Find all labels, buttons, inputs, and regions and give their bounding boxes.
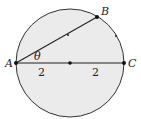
segment-label-right: 2 [92,66,99,79]
point-b [95,15,99,19]
point-c [122,61,126,65]
segment-label-left: 2 [38,66,45,79]
angle-theta-label: θ [34,50,41,63]
chord-midpoint-marker [67,34,69,36]
label-a: A [4,57,13,70]
circle-diagram: A B C θ 2 2 [0,0,141,119]
label-c: C [128,57,137,70]
arc-marker [115,35,117,37]
point-a [14,61,18,65]
center-point [68,61,72,65]
label-b: B [100,5,109,18]
